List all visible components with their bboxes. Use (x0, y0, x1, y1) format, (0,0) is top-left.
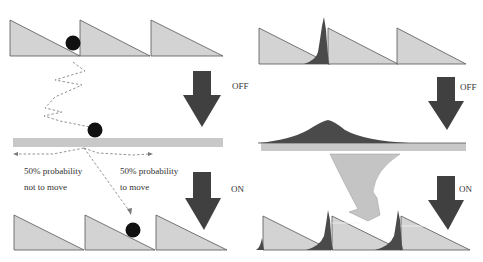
text-not-move-1: 50% probability (24, 166, 83, 176)
left-top-sawtooth (10, 20, 223, 56)
ratchet-diagram: OFF 50% probability not to move 50% prob… (0, 0, 483, 262)
arrowhead-right (148, 152, 153, 156)
left-bottom-sawtooth (14, 215, 227, 250)
arrowhead-down (127, 208, 132, 215)
left-flat-bar (13, 138, 223, 147)
curved-arrow (330, 154, 400, 221)
particle-top (66, 36, 81, 51)
text-move-1: 50% probability (120, 166, 179, 176)
path-down (84, 148, 130, 212)
particle-middle (88, 123, 103, 138)
on-label-left: ON (231, 184, 244, 194)
arrowhead-left (13, 152, 18, 156)
off-label-left: OFF (232, 81, 249, 91)
off-arrow-right (428, 77, 464, 130)
right-top-sawtooth (259, 28, 466, 64)
on-arrow-left (185, 172, 221, 230)
text-not-move-2: not to move (24, 182, 67, 192)
particle-bottom (126, 223, 141, 238)
text-move-2: to move (120, 182, 149, 192)
broad-distribution (258, 120, 410, 143)
diffusion-path (44, 62, 95, 128)
on-label-right: ON (459, 184, 472, 194)
off-label-right: OFF (460, 82, 477, 92)
off-arrow-left (183, 71, 221, 127)
path-move-right (84, 148, 150, 155)
right-bottom-sawtooth (263, 216, 470, 250)
right-flat-bar (261, 143, 466, 151)
path-not-move (16, 148, 84, 154)
